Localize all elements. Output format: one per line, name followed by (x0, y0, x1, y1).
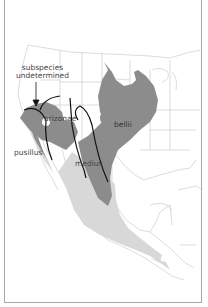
label-arizonae: arizonae (44, 115, 76, 123)
label-line-2: undetermined (16, 72, 69, 80)
label-pusillus: pusillus (14, 149, 42, 157)
label-medius: medius (75, 160, 102, 168)
breeding-range-west (20, 102, 78, 150)
label-arrow (33, 82, 39, 106)
label-subspecies-undetermined: subspecies undetermined (16, 64, 69, 80)
label-bellii: bellii (114, 121, 132, 129)
